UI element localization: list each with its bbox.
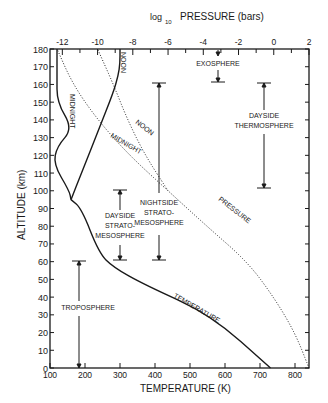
y-tick-label: 100 [33, 186, 48, 196]
nightside-label-3: MESOSPHERE [134, 219, 184, 226]
y-tick-label: 40 [38, 293, 48, 303]
nightside-label-2: STRATO- [144, 209, 175, 216]
x-axis-pressure: -12-10-8-6-4-202 [56, 37, 311, 55]
altitude-axis-title: ALTITUDE (km) [16, 170, 27, 240]
y-tick-label: 150 [33, 98, 48, 108]
pressure-tick-label: -12 [56, 37, 69, 47]
pressure-axis-subscript: 10 [165, 19, 172, 25]
y-tick-label: 140 [33, 115, 48, 125]
dayside-strato-label-2: STRATO- [105, 222, 136, 229]
pressure-curve-label: PRESSURE [217, 195, 252, 224]
y-tick-label: 20 [38, 328, 48, 338]
temperature-curve [71, 49, 120, 200]
troposphere-label: TROPOSPHERE [61, 304, 115, 311]
noon-temperature-label: NOON [120, 52, 127, 73]
noon-pressure-label: NOON [134, 118, 155, 136]
pressure-tick-label: 0 [271, 37, 276, 47]
y-tick-label: 160 [33, 80, 48, 90]
data-curves [55, 49, 309, 368]
dayside-strato-label-1: DAYSIDE [105, 212, 136, 219]
x-tick-label: 700 [253, 370, 267, 380]
temperature-curve [55, 49, 71, 200]
pressure-tick-label: -10 [91, 37, 104, 47]
x-axis-temperature: 100200300400500600700800 [43, 363, 302, 380]
pressure-tick-label: -6 [164, 37, 172, 47]
dayside-strato-label-3: MESOSPHERE [95, 232, 145, 239]
nightside-label-1: NIGHTSIDE [140, 199, 178, 206]
atmosphere-profile-chart: 0102030405060708090100110120130140150160… [0, 0, 328, 403]
pressure-axis-prefix: log [150, 12, 162, 22]
temperature-curve-label: TEMPERATURE [173, 292, 222, 324]
y-tick-label: 60 [38, 257, 48, 267]
x-tick-label: 300 [113, 370, 127, 380]
plot-frame [50, 49, 309, 368]
dayside-thermosphere-label-1: DAYSIDE [249, 112, 280, 119]
pressure-axis-title: PRESSURE (bars) [180, 11, 264, 22]
y-tick-label: 90 [38, 204, 48, 214]
y-tick-label: 30 [38, 310, 48, 320]
y-tick-label: 120 [33, 151, 48, 161]
y-tick-label: 80 [38, 222, 48, 232]
temperature-axis-title: TEMPERATURE (K) [140, 383, 231, 394]
y-tick-label: 180 [33, 45, 48, 55]
y-tick-label: 110 [34, 169, 48, 179]
y-tick-label: 70 [38, 239, 48, 249]
x-tick-label: 600 [218, 370, 232, 380]
x-tick-label: 400 [148, 370, 162, 380]
pressure-curve [168, 191, 309, 368]
x-tick-label: 100 [43, 370, 57, 380]
exosphere-label: EXOSPHERE [196, 60, 240, 67]
pressure-tick-label: -8 [129, 37, 137, 47]
y-tick-label: 130 [33, 133, 48, 143]
pressure-tick-label: -4 [200, 37, 208, 47]
pressure-tick-label: 2 [307, 37, 312, 47]
y-tick-label: 50 [38, 275, 48, 285]
pressure-curve [98, 49, 168, 191]
y-tick-label: 170 [33, 62, 48, 72]
x-tick-label: 500 [183, 370, 197, 380]
dayside-thermosphere-label-2: THERMOSPHERE [234, 122, 293, 129]
x-tick-label: 800 [288, 370, 302, 380]
midnight-temperature-label: MIDNIGHT [69, 94, 76, 129]
x-tick-label: 200 [78, 370, 92, 380]
pressure-tick-label: -2 [235, 37, 243, 47]
y-tick-label: 10 [38, 346, 48, 356]
y-axis: 0102030405060708090100110120130140150160… [33, 45, 54, 374]
